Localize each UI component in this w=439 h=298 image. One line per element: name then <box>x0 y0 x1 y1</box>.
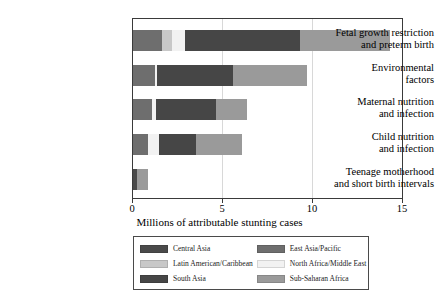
legend-label: South Asia <box>173 274 206 283</box>
legend-entry[interactable]: Central Asia <box>140 244 253 253</box>
category-label-2: Maternal nutrition and infection <box>311 96 439 119</box>
bar-segment <box>159 134 196 155</box>
xtick-label-5: 5 <box>207 203 237 214</box>
legend-label: East Asia/Pacific <box>290 244 341 253</box>
xtick-label-0: 0 <box>117 203 147 214</box>
category-label-0: Fetal growth restriction and preterm bir… <box>311 27 439 50</box>
bar-row <box>133 134 242 155</box>
bar-segment <box>137 169 148 190</box>
category-label-4-line2: and short birth intervals <box>311 178 434 190</box>
legend-swatch <box>140 245 168 253</box>
legend-swatch <box>140 260 168 268</box>
bar-segment <box>162 30 172 51</box>
category-label-4: Teenage motherhood and short birth inter… <box>311 166 439 189</box>
category-label-1: Environmental factors <box>311 62 439 85</box>
bar-segment <box>196 134 242 155</box>
bar-segment <box>157 65 233 86</box>
category-label-1-line2: factors <box>311 74 434 86</box>
legend-entry[interactable]: Sub-Saharan Africa <box>257 274 367 283</box>
category-label-0-line2: and preterm birth <box>311 39 434 51</box>
bar-row <box>133 99 247 120</box>
bar-segment <box>133 134 148 155</box>
bar-row <box>133 65 307 86</box>
bar-segment <box>233 65 307 86</box>
legend-entry[interactable]: South Asia <box>140 274 253 283</box>
legend-label: Sub-Saharan Africa <box>290 274 349 283</box>
legend-label: North Africa/Middle East <box>290 259 367 268</box>
category-label-1-line1: Environmental <box>311 62 434 74</box>
bar-segment <box>133 30 162 51</box>
legend-label: Latin American/Caribbean <box>173 259 253 268</box>
category-label-4-line1: Teenage motherhood <box>311 166 434 178</box>
bar-segment <box>133 99 152 120</box>
legend-swatch <box>257 260 285 268</box>
category-label-3: Child nutrition and infection <box>311 131 439 154</box>
x-axis-label: Millions of attributable stunting cases <box>0 216 439 228</box>
bar-segment <box>185 30 300 51</box>
category-label-0-line1: Fetal growth restriction <box>311 27 434 39</box>
xtick-label-15: 15 <box>387 203 417 214</box>
category-label-3-line2: and infection <box>311 143 434 155</box>
xtick-label-10: 10 <box>297 203 327 214</box>
bar-segment <box>148 134 159 155</box>
category-label-2-line2: and infection <box>311 108 434 120</box>
chart-legend: Central AsiaEast Asia/PacificLatin Ameri… <box>133 236 369 290</box>
legend-entry[interactable]: North Africa/Middle East <box>257 259 367 268</box>
legend-label: Central Asia <box>173 244 210 253</box>
bar-segment <box>172 30 186 51</box>
legend-swatch <box>257 275 285 283</box>
bar-segment <box>156 99 215 120</box>
category-label-2-line1: Maternal nutrition <box>311 96 434 108</box>
bar-segment <box>133 65 155 86</box>
legend-swatch <box>257 245 285 253</box>
bar-segment <box>216 99 248 120</box>
category-label-3-line1: Child nutrition <box>311 131 434 143</box>
legend-entry[interactable]: East Asia/Pacific <box>257 244 367 253</box>
legend-entry[interactable]: Latin American/Caribbean <box>140 259 253 268</box>
bar-row <box>133 169 148 190</box>
legend-swatch <box>140 275 168 283</box>
stacked-bar-chart-figure: Fetal growth restriction and preterm bir… <box>0 0 439 298</box>
